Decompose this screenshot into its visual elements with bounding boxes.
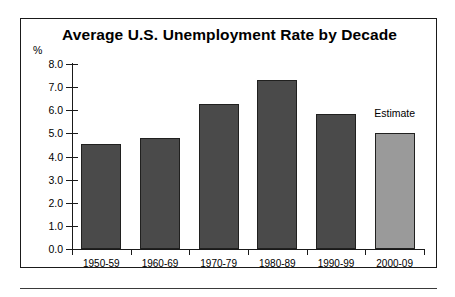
bar-1990-99 <box>316 114 356 249</box>
y-axis-tick-label: 1.0 <box>29 220 63 232</box>
y-axis-tick <box>66 87 78 88</box>
x-axis-label-1960-69: 1960-69 <box>127 258 193 269</box>
y-axis-tick-label: 4.0 <box>29 151 63 163</box>
y-axis-tick-label: 0.0 <box>29 243 63 255</box>
y-axis-tick <box>66 180 78 181</box>
x-axis-tick <box>365 249 366 255</box>
x-axis-tick <box>424 249 425 255</box>
x-axis-tick <box>131 249 132 255</box>
y-axis-tick <box>66 133 78 134</box>
y-axis-tick <box>66 203 78 204</box>
bar-1960-69 <box>140 138 180 249</box>
y-axis-tick-label: 3.0 <box>29 174 63 186</box>
x-axis-label-1990-99: 1990-99 <box>303 258 369 269</box>
y-axis-tick <box>66 64 78 65</box>
y-axis-tick-label: 7.0 <box>29 81 63 93</box>
x-axis-tick <box>72 249 73 255</box>
x-axis-tick <box>307 249 308 255</box>
chart-page: Average U.S. Unemployment Rate by Decade… <box>0 0 455 297</box>
x-axis-label-2000-09: 2000-09 <box>362 258 428 269</box>
bar-2000-09 <box>375 133 415 249</box>
y-axis-unit-label: % <box>33 44 42 56</box>
y-axis-tick <box>66 110 78 111</box>
footer-rule <box>20 288 437 289</box>
y-axis-tick <box>66 157 78 158</box>
y-axis-tick-label: 5.0 <box>29 127 63 139</box>
x-axis-label-1950-59: 1950-59 <box>68 258 134 269</box>
x-axis-tick <box>248 249 249 255</box>
bar-1970-79 <box>199 104 239 249</box>
y-axis-tick <box>66 226 78 227</box>
y-axis-tick-label: 2.0 <box>29 197 63 209</box>
y-axis-tick-label: 8.0 <box>29 58 63 70</box>
x-axis-label-1970-79: 1970-79 <box>186 258 252 269</box>
y-axis-tick-label: 6.0 <box>29 104 63 116</box>
x-axis-label-1980-89: 1980-89 <box>244 258 310 269</box>
plot-area: % 0.01.02.03.04.05.06.07.08.0 1950-59196… <box>21 19 438 269</box>
bar-1980-89 <box>257 80 297 249</box>
chart-frame: Average U.S. Unemployment Rate by Decade… <box>20 18 437 268</box>
x-axis-tick <box>189 249 190 255</box>
bar-1950-59 <box>81 144 121 249</box>
estimate-annotation: Estimate <box>355 107 435 119</box>
